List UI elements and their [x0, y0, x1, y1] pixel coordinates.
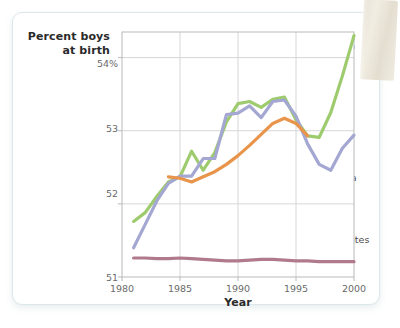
plot-svg [0, 0, 400, 328]
line-chart: Percent boys at birth Year 54% 53 52 51 … [0, 0, 400, 328]
